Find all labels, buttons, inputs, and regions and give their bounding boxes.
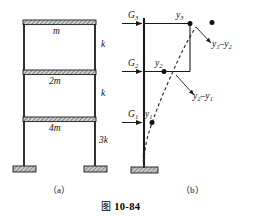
beam-level-2 — [23, 70, 96, 75]
figure-number-text: 10-84 — [114, 201, 140, 212]
node-level-1 — [150, 120, 155, 125]
label-force-level-2: G2 — [128, 59, 138, 69]
leader-drift-2-1 — [176, 75, 194, 95]
force-level-1-sub: 1 — [135, 113, 138, 120]
label-mass-top: m — [53, 27, 60, 37]
node-level-2 — [162, 69, 167, 74]
label-disp-level-3: y3 — [176, 11, 183, 21]
support-right — [84, 166, 107, 172]
label-stiffness-story-3: k — [101, 40, 105, 50]
beam-roof — [23, 20, 96, 25]
deflected-shape-dashed — [144, 27, 196, 168]
beam-level-1 — [23, 117, 96, 122]
label-mass-bottom: 4m — [49, 124, 61, 134]
figure-number-cjk: 图 — [101, 201, 111, 212]
label-drift-3-2: y₃–y₂ — [212, 40, 232, 50]
disp-level-1-sub: 1 — [149, 113, 152, 120]
label-disp-level-2: y2 — [155, 59, 162, 69]
disp-level-3-sub: 3 — [180, 14, 183, 21]
panel-a-frame — [13, 20, 107, 172]
label-force-level-1: G1 — [128, 110, 138, 120]
label-drift-2-1: y₂–y₁ — [193, 92, 213, 102]
label-stiffness-story-2: k — [101, 89, 105, 99]
label-stiffness-story-1: 3k — [99, 136, 108, 146]
force-level-2-symbol: G — [128, 58, 135, 68]
force-level-3-symbol: G — [128, 10, 135, 20]
figure-canvas — [0, 0, 255, 216]
figure-root: m 2m 4m k k 3k （a） G3 G2 G1 y3 y2 y1 y₃–… — [0, 0, 255, 216]
label-force-level-3: G3 — [128, 11, 138, 21]
node-level-3 — [188, 21, 193, 26]
support-left — [13, 166, 36, 172]
disp-level-2-sub: 2 — [159, 62, 162, 69]
label-disp-level-1: y1 — [145, 110, 152, 120]
label-mass-middle: 2m — [49, 77, 61, 87]
force-level-2-sub: 2 — [135, 62, 138, 69]
panel-b-caption: （b） — [181, 183, 204, 196]
node-level-3-deformed — [210, 20, 215, 25]
panel-a-caption: （a） — [48, 183, 70, 196]
force-level-3-sub: 3 — [135, 14, 138, 21]
figure-number: 图 10-84 — [101, 198, 140, 213]
leader-drift-3-2 — [196, 27, 211, 43]
force-level-1-symbol: G — [128, 109, 135, 119]
